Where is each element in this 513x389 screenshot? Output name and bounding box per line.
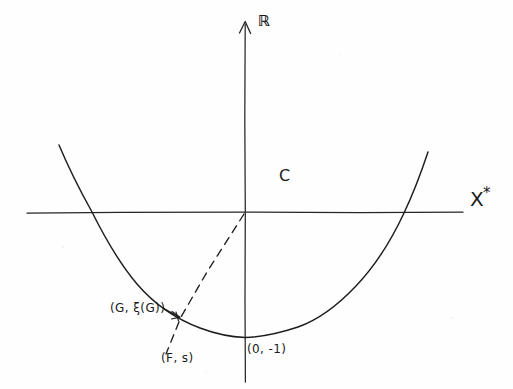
point-label-f-s: (F, s) [161, 352, 194, 364]
y-axis-label: ℝ [258, 14, 270, 29]
x-axis-label-superscript: * [483, 184, 491, 202]
paper-background [0, 0, 513, 389]
y-axis-line [245, 24, 246, 382]
x-axis-label: X* [470, 186, 491, 209]
x-axis-label-base: X [470, 187, 484, 211]
figure-canvas [0, 0, 513, 389]
point-label-vertex: (0, -1) [247, 343, 286, 355]
point-label-g-xi-g: (G, ξ(G)) [110, 302, 165, 314]
hand-drawn-figure: ℝ X* C (G, ξ(G)) (F, s) (0, -1) [0, 0, 513, 389]
curve-label-c: C [279, 168, 291, 184]
